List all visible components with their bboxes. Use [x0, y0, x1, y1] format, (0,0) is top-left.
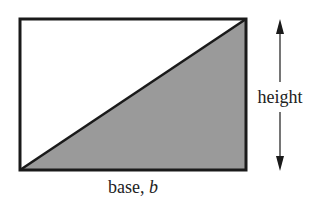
arrow-down-icon — [276, 156, 284, 171]
base-label: base, b — [108, 177, 158, 197]
height-label: height — [258, 87, 303, 107]
arrow-up-icon — [276, 19, 284, 34]
rectangle-triangle-diagram: height base, b — [0, 0, 322, 200]
base-label-prefix: base, — [108, 177, 149, 197]
base-variable: b — [149, 177, 158, 197]
